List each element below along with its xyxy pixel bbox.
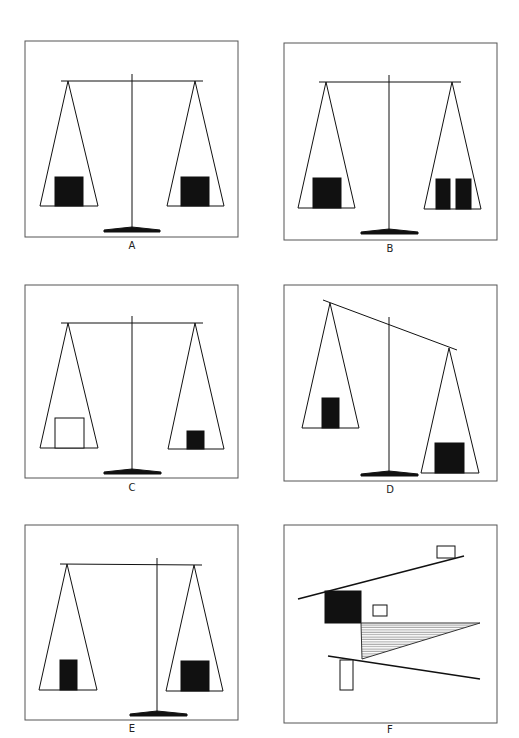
panel-c [25, 285, 238, 478]
panel-label-e: E [122, 723, 142, 734]
panel-d [284, 285, 497, 481]
panel-label-d: D [380, 484, 400, 495]
panel-b [284, 43, 497, 240]
panel-e [25, 525, 238, 720]
panel-label-a: A [122, 240, 142, 251]
panel-label-c: C [122, 482, 142, 493]
block-left [55, 177, 83, 206]
figure-canvas [0, 0, 519, 738]
panel-label-b: B [380, 243, 400, 254]
panel-a [25, 41, 238, 237]
block-right [181, 177, 209, 206]
panel-label-f: F [380, 724, 400, 735]
panel-f [284, 525, 497, 723]
